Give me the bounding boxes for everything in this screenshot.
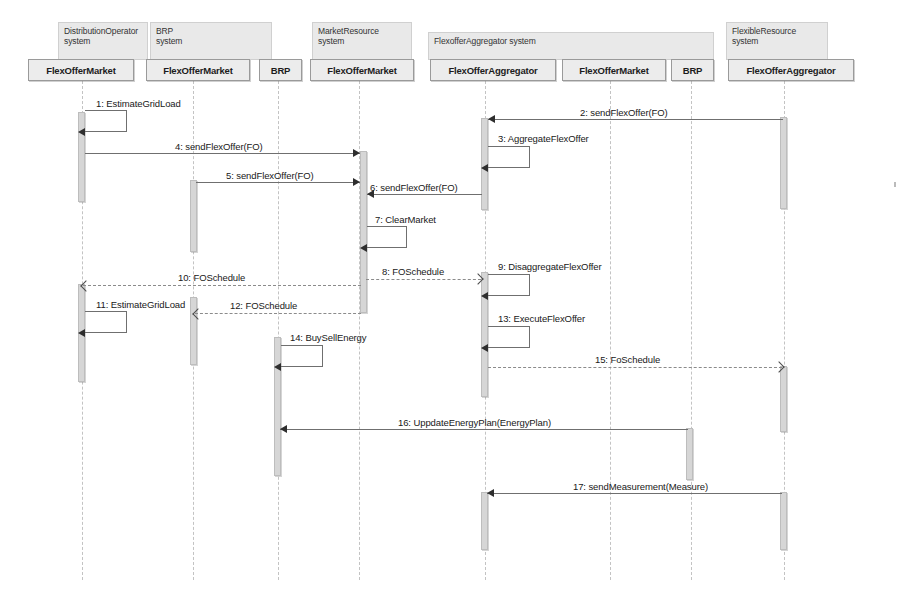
activation-bar-act-fr-1[interactable] bbox=[780, 117, 787, 209]
system-group-flexoffer-aggregator: FlexofferAggregator system bbox=[428, 32, 714, 60]
arrowhead-7 bbox=[360, 244, 367, 252]
system-group-flexible-resource: FlexibleResource system bbox=[726, 22, 828, 60]
message-label-15: 15: FoSchedule bbox=[595, 354, 660, 365]
arrowhead-13 bbox=[481, 344, 488, 352]
arrowhead-1 bbox=[78, 128, 85, 136]
self-message-hook-14[interactable] bbox=[281, 345, 323, 367]
message-label-12: 12: FOSchedule bbox=[230, 300, 297, 311]
system-group-market-resource: MarketResource system bbox=[312, 22, 412, 60]
self-message-hook-1[interactable] bbox=[85, 110, 127, 132]
message-line-6[interactable] bbox=[367, 194, 482, 195]
activation-bar-act-do-1[interactable] bbox=[78, 112, 85, 202]
system-group-label: FlexofferAggregator system bbox=[434, 36, 536, 46]
activation-bar-act-fa-2[interactable] bbox=[481, 272, 488, 397]
lifeline-head-ll-brp-brp[interactable]: BRP bbox=[259, 59, 302, 81]
arrowhead-9 bbox=[481, 292, 488, 300]
lifeline-ll-brp-brp bbox=[278, 81, 279, 580]
lifeline-ll-fa-fom bbox=[610, 81, 611, 580]
system-group-label: FlexibleResource system bbox=[732, 26, 796, 46]
message-label-14: 14: BuySellEnergy bbox=[290, 332, 366, 343]
scan-artifact bbox=[894, 182, 896, 187]
message-label-9: 9: DisaggregateFlexOffer bbox=[498, 261, 602, 272]
lifeline-head-ll-do-fom[interactable]: FlexOfferMarket bbox=[28, 59, 134, 81]
lifeline-head-ll-fa-brp[interactable]: BRP bbox=[671, 59, 714, 81]
lifeline-head-ll-brp-fom[interactable]: FlexOfferMarket bbox=[146, 59, 250, 81]
message-line-5[interactable] bbox=[196, 182, 360, 183]
sequence-diagram-canvas: DistributionOperator systemBRP systemMar… bbox=[0, 0, 923, 596]
activation-bar-act-fa-4[interactable] bbox=[481, 492, 488, 550]
message-line-16[interactable] bbox=[280, 429, 688, 430]
message-label-13: 13: ExecuteFlexOffer bbox=[498, 313, 585, 324]
lifeline-head-ll-fa-fom[interactable]: FlexOfferMarket bbox=[562, 59, 666, 81]
message-line-12[interactable] bbox=[195, 313, 361, 314]
arrowhead-14 bbox=[274, 363, 281, 371]
arrowhead-4 bbox=[353, 149, 360, 157]
arrowhead-3 bbox=[481, 164, 488, 172]
system-group-brp-system: BRP system bbox=[150, 22, 272, 60]
message-line-17[interactable] bbox=[487, 493, 782, 494]
activation-bar-act-mr-2[interactable] bbox=[274, 337, 281, 476]
lifeline-head-ll-fr-foa[interactable]: FlexOfferAggregator bbox=[728, 59, 854, 81]
message-label-3: 3: AggregateFlexOffer bbox=[498, 133, 589, 144]
system-group-label: DistributionOperator system bbox=[64, 26, 138, 46]
message-label-6: 6: sendFlexOffer(FO) bbox=[370, 182, 458, 193]
arrowhead-17 bbox=[487, 489, 494, 497]
message-label-1: 1: EstimateGridLoad bbox=[96, 98, 181, 109]
activation-bar-act-mr-1[interactable] bbox=[360, 151, 367, 313]
lifeline-head-ll-mr-fom[interactable]: FlexOfferMarket bbox=[310, 59, 414, 81]
message-label-5: 5: sendFlexOffer(FO) bbox=[226, 170, 314, 181]
message-label-16: 16: UppdateEnergyPlan(EnergyPlan) bbox=[398, 417, 551, 428]
arrowhead-2 bbox=[488, 115, 495, 123]
self-message-hook-3[interactable] bbox=[488, 146, 530, 168]
lifeline-head-ll-fa-foa[interactable]: FlexOfferAggregator bbox=[430, 59, 556, 81]
activation-bar-act-fa-3[interactable] bbox=[686, 428, 693, 480]
system-group-label: MarketResource system bbox=[318, 26, 379, 46]
activation-bar-act-brp-1[interactable] bbox=[190, 180, 197, 252]
message-label-11: 11: EstimateGridLoad bbox=[96, 299, 185, 310]
system-group-distribution-operator: DistributionOperator system bbox=[58, 22, 148, 60]
arrowhead-16 bbox=[280, 425, 287, 433]
message-line-2[interactable] bbox=[488, 119, 783, 120]
activation-bar-act-fr-3[interactable] bbox=[780, 492, 787, 550]
arrowhead-11 bbox=[78, 329, 85, 337]
activation-bar-act-fr-2[interactable] bbox=[780, 366, 787, 432]
message-label-4: 4: sendFlexOffer(FO) bbox=[175, 141, 263, 152]
self-message-hook-13[interactable] bbox=[488, 326, 530, 348]
self-message-hook-7[interactable] bbox=[367, 226, 407, 248]
message-label-2: 2: sendFlexOffer(FO) bbox=[580, 107, 668, 118]
arrowhead-5 bbox=[353, 178, 360, 186]
message-label-7: 7: ClearMarket bbox=[375, 214, 436, 225]
self-message-hook-11[interactable] bbox=[85, 311, 127, 333]
message-label-10: 10: FOSchedule bbox=[178, 272, 245, 283]
lifeline-ll-fa-brp bbox=[691, 81, 692, 580]
activation-bar-act-brp-2[interactable] bbox=[190, 297, 197, 365]
self-message-hook-9[interactable] bbox=[488, 274, 530, 296]
message-line-4[interactable] bbox=[85, 153, 360, 154]
system-group-label: BRP system bbox=[156, 26, 182, 46]
message-label-17: 17: sendMeasurement(Measure) bbox=[573, 481, 708, 492]
message-line-15[interactable] bbox=[488, 367, 782, 368]
message-line-10[interactable] bbox=[83, 285, 361, 286]
message-line-8[interactable] bbox=[366, 279, 481, 280]
message-label-8: 8: FOSchedule bbox=[382, 266, 444, 277]
